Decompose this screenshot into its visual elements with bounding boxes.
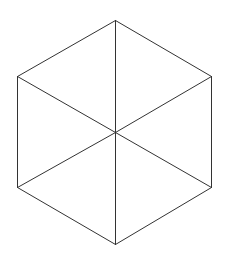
spoke-lower-left [18, 133, 116, 188]
edge-top-right [116, 21, 212, 77]
spoke-upper-right [116, 77, 212, 133]
edge-bottom-left [18, 188, 116, 245]
spoke-upper-left [18, 77, 116, 133]
edge-bottom-right [116, 188, 212, 245]
hexagon-spokes [18, 21, 212, 245]
hexagon-diagram [0, 0, 241, 259]
spoke-lower-right [116, 133, 212, 188]
edge-top-left [18, 21, 116, 77]
